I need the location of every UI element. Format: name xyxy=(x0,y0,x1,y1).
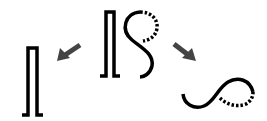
right-result-s-curve xyxy=(183,79,253,107)
left-result-bracket xyxy=(22,48,43,115)
source-glyph xyxy=(100,12,157,77)
source-s-curve-dashed xyxy=(140,12,157,41)
source-s-curve-solid xyxy=(125,12,152,77)
arrow-down-right xyxy=(174,44,196,61)
arrow-down-left xyxy=(57,45,80,61)
source-bracket xyxy=(100,12,120,76)
split-diagram xyxy=(0,0,267,121)
right-s-curve-dashed xyxy=(220,92,253,106)
right-s-curve-solid xyxy=(183,79,253,107)
